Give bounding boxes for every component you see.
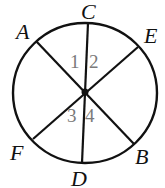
angle-label-3: 3 <box>67 105 77 126</box>
point-label-A: A <box>14 19 30 44</box>
point-label-E: E <box>143 23 158 48</box>
angle-label-1: 1 <box>70 51 80 72</box>
angle-label-2: 2 <box>89 51 99 72</box>
circle-diagram: ACEFDB 1234 <box>0 0 165 188</box>
point-label-C: C <box>81 0 96 24</box>
point-label-F: F <box>9 140 24 165</box>
center-point <box>82 89 89 96</box>
angle-labels: 1234 <box>67 51 99 126</box>
point-label-D: D <box>70 166 87 188</box>
point-label-B: B <box>135 144 148 169</box>
angle-label-4: 4 <box>85 105 95 126</box>
